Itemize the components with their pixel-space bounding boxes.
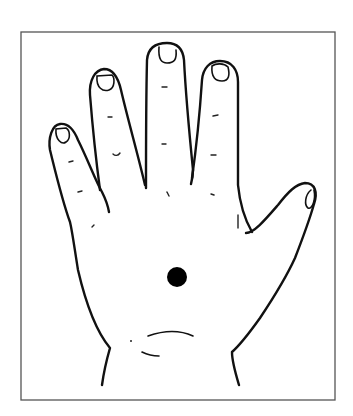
middle-nail: [159, 47, 176, 63]
wrist-creases: [130, 332, 193, 357]
skin-crease-marks: [69, 87, 238, 228]
thumb-nail: [306, 190, 315, 208]
palm-center-marker: [167, 267, 187, 287]
wrist-crease-upper: [148, 332, 193, 337]
hand-illustration: [0, 0, 353, 416]
pinky-nail: [56, 128, 69, 143]
ring-nail: [97, 75, 114, 90]
wrist-crease-lower: [142, 352, 159, 356]
index-nail: [212, 64, 229, 81]
hand-outline: [49, 43, 315, 385]
